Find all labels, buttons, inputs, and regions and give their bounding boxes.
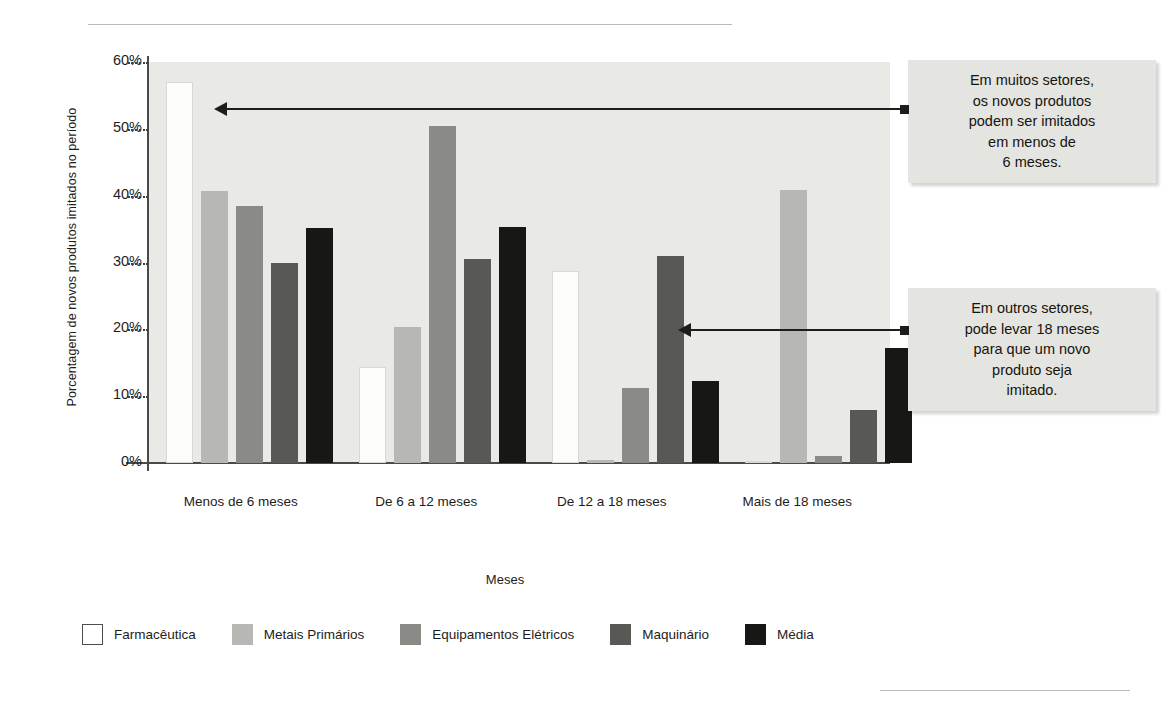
legend: FarmacêuticaMetais PrimáriosEquipamentos…	[82, 624, 1092, 645]
annotation-text-line: Em muitos setores,	[922, 70, 1142, 91]
annotation-text-line: pode levar 18 meses	[922, 319, 1142, 340]
y-axis-tick-mark	[128, 329, 148, 331]
bar[interactable]	[271, 263, 298, 464]
bar[interactable]	[359, 367, 386, 463]
bottom-divider-rule	[880, 690, 1130, 691]
legend-item[interactable]: Equipamentos Elétricos	[400, 624, 574, 645]
legend-swatch-icon	[232, 624, 253, 645]
bar-group	[341, 62, 534, 463]
bar[interactable]	[622, 388, 649, 463]
bar[interactable]	[780, 190, 807, 463]
annotation-text-line: Em outros setores,	[922, 298, 1142, 319]
bar[interactable]	[745, 461, 772, 463]
bar[interactable]	[306, 228, 333, 463]
y-axis-tick-label: 10%	[84, 386, 142, 402]
bar[interactable]	[692, 381, 719, 463]
y-axis-tick-mark	[128, 196, 148, 198]
y-axis-tick-label: 60%	[84, 52, 142, 68]
annotation-text-line: 6 meses.	[922, 152, 1142, 173]
legend-label: Farmacêutica	[114, 627, 196, 642]
annotation-callout-1: Em muitos setores,os novos produtospodem…	[908, 60, 1156, 183]
y-axis-tick-label: 20%	[84, 319, 142, 335]
bar[interactable]	[587, 460, 614, 463]
x-axis-title: Meses	[0, 572, 1010, 587]
annotation-leader-line-1	[226, 108, 904, 110]
bar[interactable]	[850, 410, 877, 463]
annotation-text-line: produto seja	[922, 360, 1142, 381]
bar-group	[148, 62, 341, 463]
x-axis-category-label: De 12 a 18 meses	[519, 494, 705, 509]
bar-group	[534, 62, 727, 463]
bar[interactable]	[499, 227, 526, 463]
annotation-callout-2: Em outros setores,pode levar 18 mesespar…	[908, 288, 1156, 411]
legend-item[interactable]: Maquinário	[610, 624, 709, 645]
bar[interactable]	[166, 82, 193, 463]
legend-swatch-icon	[610, 624, 631, 645]
annotation-text-line: os novos produtos	[922, 91, 1142, 112]
annotation-text-line: podem ser imitados	[922, 111, 1142, 132]
y-axis-title: Porcentagem de novos produtos imitados n…	[65, 57, 79, 457]
annotation-text-line: para que um novo	[922, 339, 1142, 360]
bar-groups	[148, 62, 890, 463]
legend-item[interactable]: Farmacêutica	[82, 624, 196, 645]
x-axis-category-label: Mais de 18 meses	[705, 494, 891, 509]
y-axis-tick-mark	[128, 263, 148, 265]
y-axis-tick-label: 0%	[84, 453, 142, 469]
bar[interactable]	[552, 271, 579, 463]
bar[interactable]	[236, 206, 263, 463]
x-axis-category-label: De 6 a 12 meses	[334, 494, 520, 509]
y-axis-tick-label: 50%	[84, 119, 142, 135]
bar[interactable]	[815, 456, 842, 463]
annotation-text-line: em menos de	[922, 132, 1142, 153]
legend-label: Média	[777, 627, 814, 642]
legend-item[interactable]: Metais Primários	[232, 624, 365, 645]
annotation-anchor-dot-1	[900, 105, 909, 114]
x-axis-category-label: Menos de 6 meses	[148, 494, 334, 509]
bar[interactable]	[394, 327, 421, 463]
top-divider-rule	[88, 24, 732, 25]
y-axis-tick-label: 40%	[84, 186, 142, 202]
legend-label: Metais Primários	[264, 627, 365, 642]
bar[interactable]	[201, 191, 228, 463]
y-axis-tick-mark	[128, 396, 148, 398]
legend-item[interactable]: Média	[745, 624, 814, 645]
bar[interactable]	[464, 259, 491, 463]
annotation-anchor-dot-2	[900, 326, 909, 335]
x-axis-category-labels: Menos de 6 mesesDe 6 a 12 mesesDe 12 a 1…	[148, 494, 890, 509]
legend-label: Equipamentos Elétricos	[432, 627, 574, 642]
legend-swatch-icon	[400, 624, 421, 645]
legend-swatch-icon	[82, 624, 103, 645]
bar[interactable]	[429, 126, 456, 464]
legend-label: Maquinário	[642, 627, 709, 642]
annotation-arrow-icon-2	[678, 323, 691, 337]
annotation-arrow-icon-1	[214, 102, 227, 116]
y-axis-tick-mark	[128, 129, 148, 131]
bar-group	[727, 62, 920, 463]
y-axis-tick-label: 30%	[84, 253, 142, 269]
annotation-leader-line-2	[690, 329, 904, 331]
legend-swatch-icon	[745, 624, 766, 645]
bar[interactable]	[657, 256, 684, 463]
y-axis-tick-mark	[128, 62, 148, 64]
annotation-text-line: imitado.	[922, 380, 1142, 401]
